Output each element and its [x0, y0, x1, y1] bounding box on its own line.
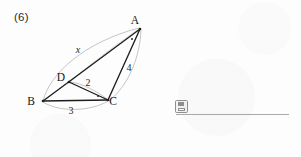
geometry-figure: A B C D x 4 2 3 [0, 0, 301, 157]
figure-segments [43, 29, 140, 101]
measure-label-2: 2 [86, 77, 91, 88]
worksheet-page: (6) A B C [0, 0, 301, 157]
save-icon-label [178, 108, 186, 112]
segment-ba [43, 29, 140, 101]
vertex-dot-b [42, 100, 45, 103]
measure-label-3: 3 [69, 105, 74, 116]
measure-label-4: 4 [127, 62, 132, 73]
save-icon-shutter [178, 102, 184, 106]
vertex-dot-d [68, 81, 71, 84]
vertex-dot-a [139, 28, 142, 31]
save-icon[interactable] [175, 100, 188, 113]
segment-bc [43, 100, 108, 101]
answer-rule[interactable] [176, 114, 289, 115]
arc-bc-3 [43, 101, 108, 109]
vertex-label-d: D [57, 71, 65, 83]
angle-mark-a-icon [131, 38, 133, 40]
measure-label-x: x [75, 44, 81, 55]
vertex-label-a: A [131, 14, 140, 26]
vertex-label-b: B [27, 95, 35, 107]
vertex-label-c: C [109, 95, 117, 107]
angle-mark-c-icon [97, 95, 99, 97]
